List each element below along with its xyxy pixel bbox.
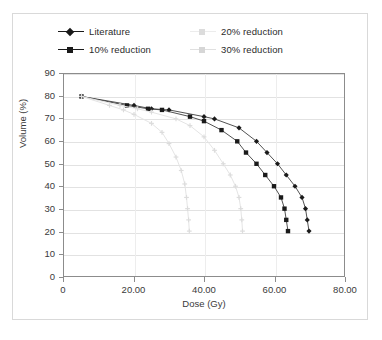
x-axis-tick-mark	[275, 277, 276, 282]
x-axis-tick-label: 80.00	[315, 285, 375, 295]
x-axis-tick-label: 20.00	[104, 285, 164, 295]
y-axis-title: Volume (%)	[17, 99, 28, 148]
x-axis-tick-mark	[134, 277, 135, 282]
x-axis-tick-label: 40.00	[174, 285, 234, 295]
x-axis-title: Dose (Gy)	[63, 298, 345, 309]
x-axis: 020.0040.0060.0080.00	[0, 0, 382, 340]
figure-container: Literature 10% reduction 20% reduction 3…	[0, 0, 382, 340]
x-axis-tick-mark	[204, 277, 205, 282]
x-axis-tick-mark	[345, 277, 346, 282]
x-axis-tick-label: 0	[33, 285, 93, 295]
x-axis-tick-mark	[63, 277, 64, 282]
x-axis-tick-label: 60.00	[245, 285, 305, 295]
